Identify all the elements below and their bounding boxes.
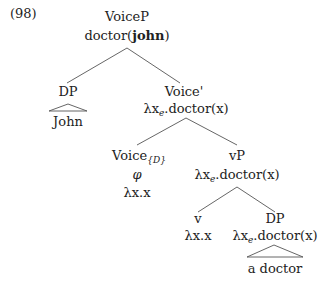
denotation-prefix: doctor( xyxy=(84,28,132,43)
feature-subscript: {D} xyxy=(147,155,166,165)
node-vp-label: vP xyxy=(229,148,245,163)
tree-branches xyxy=(0,0,328,289)
node-voicebar-label: Voice' xyxy=(165,84,204,99)
node-vp-denotation: λxe.doctor(x) xyxy=(194,167,279,182)
triangle-john xyxy=(49,104,87,111)
node-dp-object-terminal: a doctor xyxy=(248,261,303,276)
denotation-body: .doctor(x) xyxy=(164,101,228,116)
node-voice-head-label: Voice{D} xyxy=(112,148,166,163)
example-number: (98) xyxy=(10,6,37,21)
branch-voicebar-vp xyxy=(186,118,237,145)
node-v-denotation: λx.x xyxy=(184,228,211,243)
branch-voicep-voicebar xyxy=(127,48,180,83)
voice-label: Voice xyxy=(112,148,147,163)
lambda: λx xyxy=(194,167,210,182)
node-voicep-label: VoiceP xyxy=(105,9,149,24)
lambda: λx xyxy=(143,101,159,116)
node-dp-object-label: DP xyxy=(265,211,284,226)
node-voice-head-denotation: λx.x xyxy=(123,185,150,200)
branch-voicebar-voice xyxy=(137,118,186,145)
node-dp-subject-terminal: John xyxy=(53,114,83,129)
branch-vp-v xyxy=(198,187,237,212)
node-dp-subject-label: DP xyxy=(58,84,77,99)
node-voicebar-denotation: λxe.doctor(x) xyxy=(143,101,228,116)
branch-vp-dp xyxy=(237,187,275,212)
denotation-suffix: ) xyxy=(164,28,169,43)
branch-voicep-dp xyxy=(67,48,127,83)
node-voice-head-phon: φ xyxy=(132,167,141,182)
lambda: λx xyxy=(232,228,248,243)
denotation-body: .doctor(x) xyxy=(253,228,317,243)
denotation-body: .doctor(x) xyxy=(215,167,279,182)
triangle-a-doctor xyxy=(247,245,303,257)
denotation-bold: john xyxy=(132,28,164,43)
node-v-label: v xyxy=(194,211,201,226)
node-voicep-denotation: doctor(john) xyxy=(84,28,169,43)
node-dp-object-denotation: λxe.doctor(x) xyxy=(232,228,317,243)
